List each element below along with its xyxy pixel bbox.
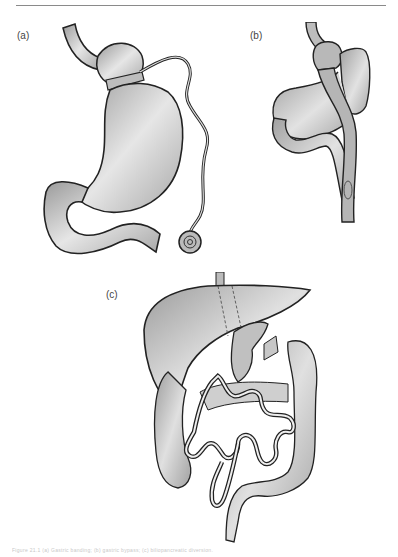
- panel-b-label: (b): [250, 30, 262, 41]
- gastric-bypass-icon: [262, 22, 392, 232]
- panel-a-label: (a): [17, 30, 29, 41]
- figure-caption: Figure 21.1 (a) Gastric banding; (b) gas…: [12, 547, 352, 553]
- intestine-liver-icon: [138, 272, 348, 544]
- panel-b-gastric-bypass-illustration: [262, 22, 392, 232]
- header-rule: [16, 5, 386, 6]
- stomach-band-icon: [40, 20, 230, 260]
- panel-c-biliopancreatic-diversion-illustration: [138, 272, 348, 544]
- panel-a-gastric-band-illustration: [40, 20, 230, 260]
- panel-c-label: (c): [106, 289, 118, 300]
